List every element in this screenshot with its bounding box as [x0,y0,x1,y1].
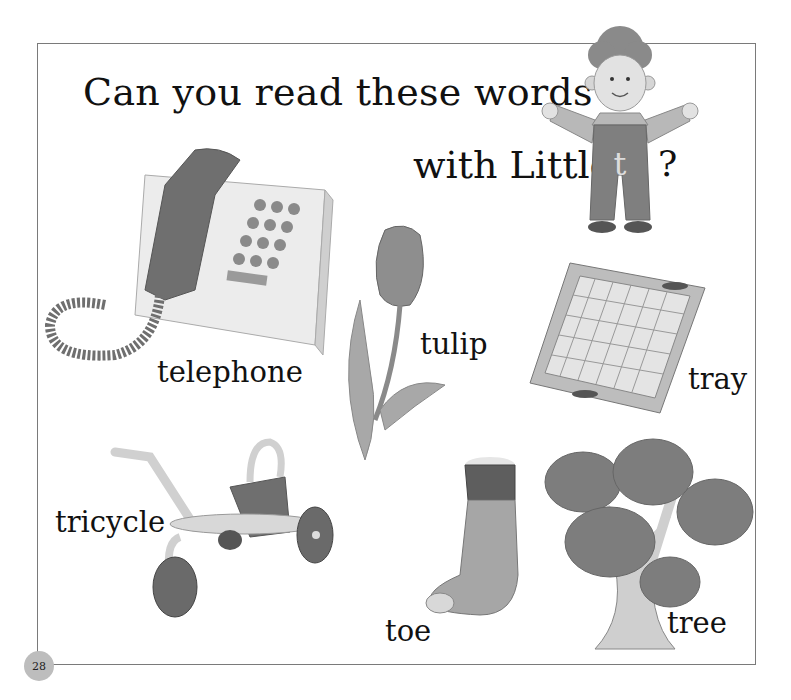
toe-illustration [420,455,540,625]
tray-illustration [530,258,705,418]
word-tree: tree [667,606,727,640]
little-t-boy-illustration: t [540,25,710,240]
title-line-1: Can you read these words [83,70,593,114]
word-telephone: telephone [157,355,303,389]
page-number: 28 [32,660,46,673]
word-tricycle: tricycle [55,505,165,539]
page-number-badge: 28 [24,651,54,681]
word-tulip: tulip [420,327,487,361]
word-tray: tray [688,362,747,396]
word-toe: toe [385,614,431,648]
letter-t-badge: t [614,145,627,183]
